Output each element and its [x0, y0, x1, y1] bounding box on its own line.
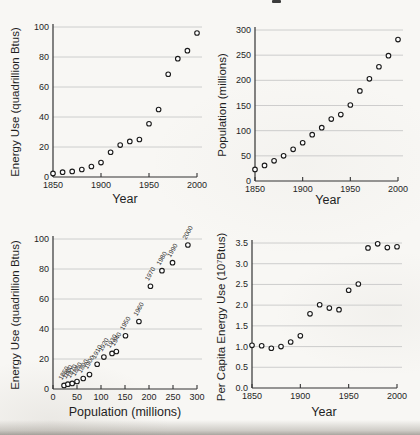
- x-tick-label: 150: [117, 392, 132, 402]
- data-point: [358, 89, 363, 94]
- data-point: [160, 268, 165, 273]
- data-point: [108, 150, 113, 155]
- data-point: [128, 139, 133, 144]
- y-tick-label: 20: [39, 354, 49, 364]
- data-point: [356, 282, 361, 287]
- data-point: [348, 103, 353, 108]
- data-point: [259, 343, 264, 348]
- y-tick-label: 0.0: [235, 383, 248, 393]
- data-point: [250, 343, 255, 348]
- data-point: [87, 372, 92, 377]
- chart-energy-vs-year: 1850190019502000020406080100: [0, 0, 210, 218]
- data-point: [385, 245, 390, 250]
- data-point: [137, 137, 142, 142]
- data-point: [337, 307, 342, 312]
- x-tick-label: 250: [165, 392, 180, 402]
- data-point: [262, 163, 267, 168]
- x-tick-label: 2000: [388, 184, 408, 194]
- x-tick-label: 2000: [187, 180, 207, 190]
- data-point: [123, 333, 128, 338]
- data-point: [375, 242, 380, 247]
- data-point: [310, 132, 315, 137]
- x-tick-label: 0: [50, 392, 55, 402]
- data-point: [395, 244, 400, 249]
- y-tick-label: 100: [34, 22, 49, 32]
- data-point: [396, 37, 401, 42]
- x-axis-label-energy-vs-population: Population (millions): [45, 404, 205, 420]
- y-axis-label-population-vs-year: Population (millions): [213, 35, 231, 175]
- data-point: [81, 376, 86, 381]
- data-point: [346, 288, 351, 293]
- data-point: [272, 159, 277, 164]
- data-point: [118, 143, 123, 148]
- y-tick-label: 60: [39, 82, 49, 92]
- point-year-label: 2000: [181, 224, 194, 240]
- data-point: [288, 340, 293, 345]
- y-tick-label: 40: [39, 112, 49, 122]
- data-point: [300, 140, 305, 145]
- data-point: [185, 48, 190, 53]
- x-tick-label: 300: [189, 392, 204, 402]
- data-point: [156, 107, 161, 112]
- data-point: [102, 355, 107, 360]
- data-point: [95, 362, 100, 367]
- data-point: [366, 246, 371, 251]
- data-point: [253, 167, 258, 172]
- y-tick-label: 0: [44, 384, 49, 394]
- x-tick-label: 200: [141, 392, 156, 402]
- data-point: [195, 31, 200, 36]
- x-axis-label-energy-vs-year: Year: [65, 191, 185, 207]
- y-tick-label: 0: [44, 172, 49, 182]
- data-point: [89, 164, 94, 169]
- data-point: [319, 125, 324, 130]
- data-point: [339, 112, 344, 117]
- y-tick-label: 100: [34, 234, 49, 244]
- y-tick-label: 0.5: [235, 362, 248, 372]
- data-point: [60, 170, 65, 175]
- y-tick-label: 0: [246, 176, 251, 186]
- y-tick-label: 80: [39, 264, 49, 274]
- data-point: [70, 169, 75, 174]
- data-point: [298, 334, 303, 339]
- y-tick-label: 2.0: [235, 300, 248, 310]
- y-axis-label-energy-vs-population: Energy Use (quadrillion Btus): [6, 225, 24, 405]
- y-axis-label-percapita-vs-year: Per Capita Energy Use (10⁷Btus): [212, 217, 230, 417]
- x-axis-label-population-vs-year: Year: [268, 192, 388, 208]
- x-tick-label: 1900: [290, 391, 310, 401]
- y-tick-label: 100: [236, 126, 251, 136]
- y-tick-label: 150: [236, 101, 251, 111]
- y-tick-label: 3.0: [235, 259, 248, 269]
- data-point: [51, 171, 56, 176]
- y-tick-label: 200: [236, 75, 251, 85]
- data-point: [114, 349, 119, 354]
- y-tick-label: 3.5: [235, 238, 248, 248]
- y-tick-label: 1.5: [235, 321, 248, 331]
- scanned-figure-page: 1850190019502000020406080100 18501900195…: [0, 0, 420, 435]
- data-point: [99, 160, 104, 165]
- data-point: [377, 64, 382, 69]
- chart-percapita-energy-vs-year: 18501900195020000.00.51.01.52.02.53.03.5: [210, 218, 420, 435]
- data-point: [327, 306, 332, 311]
- y-tick-label: 20: [39, 142, 49, 152]
- data-point: [329, 117, 334, 122]
- data-point: [166, 72, 171, 77]
- data-point: [170, 260, 175, 265]
- data-point: [137, 319, 142, 324]
- data-point: [367, 77, 372, 82]
- data-point: [176, 56, 181, 61]
- x-tick-label: 1950: [139, 180, 159, 190]
- data-point: [269, 346, 274, 351]
- data-point: [80, 167, 85, 172]
- y-tick-label: 40: [39, 324, 49, 334]
- data-point: [147, 121, 152, 126]
- data-point: [186, 243, 191, 248]
- x-tick-label: 2000: [387, 391, 407, 401]
- x-tick-label: 1950: [339, 391, 359, 401]
- point-year-label: 1960: [132, 301, 145, 317]
- data-point: [148, 284, 153, 289]
- data-point: [291, 147, 296, 152]
- data-point: [281, 154, 286, 159]
- data-point: [386, 53, 391, 58]
- chart-energy-vs-population: 0501001502002503000204060801001850186018…: [0, 218, 210, 435]
- point-year-label: 1970: [143, 265, 156, 281]
